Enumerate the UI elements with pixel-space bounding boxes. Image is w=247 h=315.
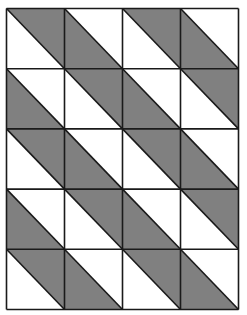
- tiling-diagram: [0, 0, 247, 315]
- tiling-grid: [0, 0, 247, 315]
